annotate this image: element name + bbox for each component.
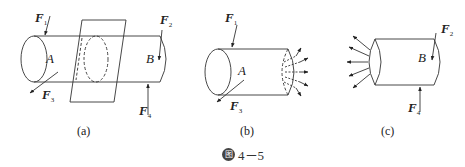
force-f2-label: F2 — [440, 21, 454, 38]
figure-caption: 图 4－5 — [222, 145, 264, 164]
panel-b-caption: (b) — [240, 124, 254, 138]
force-f3-label: F3 — [229, 98, 243, 115]
figure-diagram: A B F1 F2 F3 F4 (a) A F1 F3 (b) — [0, 0, 465, 167]
force-f2-label: F2 — [159, 12, 173, 29]
section-label-b: B — [146, 51, 154, 66]
panel-c — [347, 33, 440, 112]
cutting-plane — [70, 20, 126, 102]
section-label-b: B — [418, 50, 426, 65]
cylinder-left-end — [21, 36, 47, 82]
force-f4-label: F4 — [407, 100, 421, 117]
force-f1-label: F1 — [34, 10, 48, 27]
section-label-a: A — [45, 51, 54, 66]
section-ellipse — [84, 36, 108, 82]
figure-number: 4－5 — [238, 145, 264, 164]
panel-a-caption: (a) — [77, 124, 90, 138]
force-f1-label: F1 — [224, 10, 238, 27]
section-label-a: A — [237, 63, 246, 78]
force-f3-label: F3 — [41, 87, 55, 104]
panel-c-caption: (c) — [381, 124, 394, 138]
figure-badge: 图 — [222, 148, 235, 161]
panel-b — [205, 25, 308, 102]
force-f4-label: F4 — [138, 103, 152, 120]
